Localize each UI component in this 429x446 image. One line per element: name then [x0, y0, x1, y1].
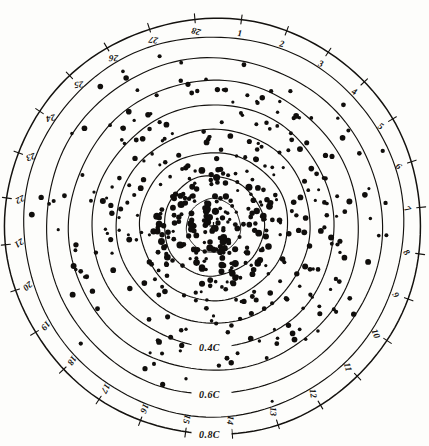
- scatter-point: [273, 193, 278, 198]
- scatter-point: [255, 101, 259, 105]
- angle-label-10: 10: [370, 327, 383, 340]
- angle-label-9: 9: [390, 290, 401, 299]
- scatter-point: [153, 277, 157, 281]
- scatter-point: [294, 213, 298, 217]
- scatter-point: [322, 176, 326, 180]
- scatter-point: [209, 182, 213, 186]
- scatter-point: [179, 328, 184, 333]
- scatter-point: [127, 183, 131, 187]
- scatter-point: [193, 199, 197, 203]
- scatter-point: [179, 61, 183, 65]
- scatter-point: [92, 190, 95, 193]
- scatter-point: [309, 166, 315, 172]
- scatter-point: [290, 209, 294, 213]
- ring-label-0.8C: 0.8C: [192, 427, 232, 440]
- scatter-point: [147, 127, 152, 132]
- scatter-point: [245, 170, 248, 173]
- angle-label-2: 2: [278, 38, 286, 49]
- scatter-point: [219, 255, 225, 261]
- scatter-point: [224, 356, 229, 361]
- scatter-point: [125, 201, 129, 205]
- scatter-point: [219, 269, 225, 275]
- scatter-point: [74, 268, 78, 272]
- scatter-point: [293, 113, 299, 119]
- scatter-point: [267, 272, 271, 276]
- scatter-point: [318, 228, 324, 234]
- scatter-point: [176, 215, 181, 220]
- angle-label-8: 8: [401, 248, 412, 258]
- scatter-point: [245, 93, 249, 97]
- scatter-point: [309, 116, 313, 120]
- scatter-point: [249, 311, 254, 316]
- scatter-point: [297, 146, 303, 152]
- scatter-point: [238, 317, 242, 321]
- scatter-point: [278, 151, 282, 155]
- scatter-point: [275, 124, 279, 128]
- scatter-point: [215, 180, 220, 185]
- scatter-point: [100, 198, 106, 204]
- scatter-point: [184, 328, 187, 331]
- scatter-point: [176, 153, 181, 158]
- scatter-point: [62, 193, 67, 198]
- scatter-point: [245, 250, 251, 256]
- scatter-point: [199, 281, 205, 287]
- scatter-point: [108, 203, 113, 208]
- angle-tick: [416, 253, 425, 254]
- scatter-point: [291, 199, 297, 205]
- scatter-point: [228, 198, 233, 203]
- scatter-point: [94, 250, 98, 254]
- scatter-point: [245, 246, 249, 250]
- scatter-point: [110, 252, 113, 255]
- scatter-point: [303, 215, 309, 221]
- scatter-point: [207, 239, 213, 245]
- scatter-point: [270, 218, 275, 223]
- scatter-point: [217, 363, 221, 367]
- scatter-point: [168, 175, 172, 179]
- scatter-point: [242, 62, 247, 67]
- scatter-point: [110, 267, 116, 273]
- scatter-point: [208, 135, 211, 138]
- scatter-point: [316, 329, 320, 333]
- scatter-point: [39, 195, 44, 200]
- scatter-point: [159, 232, 164, 237]
- scatter-point: [261, 187, 266, 192]
- scatter-point: [160, 352, 164, 356]
- scatter-point: [334, 277, 338, 281]
- scatter-point: [117, 176, 122, 181]
- scatter-point: [182, 293, 186, 297]
- scatter-point: [308, 267, 313, 272]
- scatter-point: [241, 222, 246, 227]
- angle-label-4: 4: [349, 86, 359, 98]
- scatter-point: [145, 112, 151, 118]
- scatter-point: [235, 154, 239, 158]
- scatter-point: [160, 285, 164, 289]
- scatter-point: [238, 235, 242, 239]
- angle-tick: [2, 197, 11, 198]
- scatter-point: [328, 234, 334, 240]
- scatter-point: [141, 177, 146, 182]
- scatter-point: [185, 82, 190, 87]
- scatter-point: [172, 230, 175, 233]
- scatter-point: [249, 193, 252, 196]
- scatter-point: [252, 290, 256, 294]
- scatter-point: [157, 120, 161, 124]
- scatter-point: [258, 339, 261, 342]
- scatter-point: [57, 228, 60, 231]
- scatter-point: [170, 258, 175, 263]
- scatter-point: [316, 267, 321, 272]
- ring-label-text: 0.4C: [199, 342, 220, 353]
- scatter-point: [105, 196, 108, 199]
- scatter-point: [251, 197, 257, 203]
- scatter-point: [335, 242, 339, 246]
- scatter-point: [229, 270, 236, 277]
- scatter-point: [250, 178, 254, 182]
- scatter-point: [165, 273, 170, 278]
- scatter-point: [273, 328, 276, 331]
- angle-label-12: 12: [308, 388, 319, 399]
- angle-label-15: 15: [181, 414, 193, 426]
- scatter-point: [298, 284, 302, 288]
- scatter-point: [193, 233, 199, 239]
- scatter-point: [215, 220, 220, 225]
- scatter-point: [118, 206, 123, 211]
- scatter-point: [286, 231, 291, 236]
